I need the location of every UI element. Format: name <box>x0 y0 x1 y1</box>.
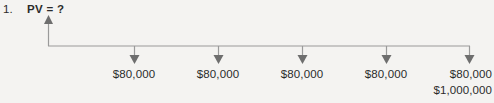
cashflow-amount-label: $80,000 <box>172 68 264 80</box>
principal-amount-label: $1,000,000 <box>400 84 492 96</box>
cashflow-arrow-head-icon <box>130 55 140 64</box>
cashflow-amount-label: $80,000 <box>256 68 348 80</box>
cash-flow-timeline-figure: 1. PV = ? $80,000 $80,000 $80,000 $80,00… <box>0 0 494 103</box>
cashflow-amount-label: $80,000 <box>88 68 180 80</box>
cashflow-arrow-head-icon <box>298 55 308 64</box>
cashflow-arrow-head-icon <box>382 55 392 64</box>
cashflow-amount-label: $80,000 <box>400 68 492 80</box>
pv-arrow-head-icon <box>44 15 53 24</box>
cashflow-arrow-head-icon <box>465 55 475 64</box>
cashflow-arrow-head-icon <box>214 55 224 64</box>
